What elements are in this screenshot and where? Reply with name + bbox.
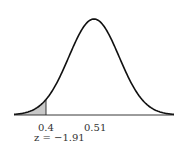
z-score-label: z = −1.91: [34, 132, 85, 143]
tick-label-mean: 0.51: [84, 122, 106, 133]
shaded-tail: [14, 100, 46, 115]
normal-curve: [14, 19, 174, 114]
